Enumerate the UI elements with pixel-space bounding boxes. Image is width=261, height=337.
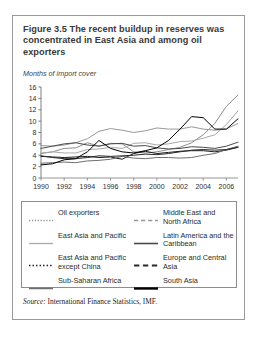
legend-column-left: Oil exportersEast Asia and PacificEast A… (29, 209, 137, 299)
source-text: International Finance Statistics, IMF. (46, 297, 157, 306)
legend-item[interactable]: Latin America and the Caribbean (134, 232, 234, 249)
legend-label: Sub-Saharan Africa (58, 277, 121, 286)
y-tick-label: 10 (29, 118, 37, 125)
figure-container: Figure 3.5 The recent buildup in reserve… (12, 15, 245, 320)
legend-item[interactable]: East Asia and Pacific except China (29, 254, 137, 271)
legend-item[interactable]: Sub-Saharan Africa (29, 277, 137, 294)
legend-swatch-line-icon (29, 234, 53, 243)
source-note: Source: International Finance Statistics… (23, 297, 157, 306)
legend-swatch-line-icon (29, 256, 53, 265)
x-tick-label: 2004 (195, 183, 211, 190)
y-tick-label: 0 (33, 175, 37, 182)
legend-label: South Asia (163, 277, 198, 286)
y-axis-unit-label: Months of import cover (23, 69, 96, 78)
x-tick-label: 1992 (56, 183, 72, 190)
legend-label: East Asia and Pacific except China (58, 254, 137, 271)
line-chart-svg: 0246810121416199019921994199619982000200… (15, 82, 244, 198)
x-tick-label: 1990 (33, 183, 49, 190)
y-tick-label: 16 (29, 84, 37, 91)
y-tick-label: 8 (33, 129, 37, 136)
chart-plot-area: 0246810121416199019921994199619982000200… (15, 82, 244, 198)
y-tick-label: 6 (33, 140, 37, 147)
legend-swatch-line-icon (134, 279, 158, 288)
legend-swatch-line-icon (29, 279, 53, 288)
y-tick-label: 2 (33, 163, 37, 170)
legend-item[interactable]: Middle East and North Africa (134, 209, 234, 226)
y-tick-label: 4 (33, 152, 37, 159)
x-tick-label: 1994 (80, 183, 96, 190)
legend-item[interactable]: Oil exporters (29, 209, 137, 226)
legend-column-right: Middle East and North AfricaLatin Americ… (134, 209, 234, 299)
legend-swatch-line-icon (134, 211, 158, 220)
y-axis-ticks: 0246810121416 (29, 84, 41, 182)
legend-item[interactable]: South Asia (134, 277, 234, 294)
y-tick-label: 14 (29, 95, 37, 102)
y-tick-label: 12 (29, 106, 37, 113)
chart-axes (41, 87, 238, 178)
legend-item[interactable]: East Asia and Pacific (29, 232, 137, 249)
x-tick-label: 2000 (149, 183, 165, 190)
legend-label: East Asia and Pacific (58, 232, 126, 241)
legend-swatch-line-icon (134, 256, 158, 265)
source-label: Source: (23, 297, 46, 306)
x-tick-label: 1996 (103, 183, 119, 190)
legend-swatch-line-icon (29, 211, 53, 220)
chart-legend: Oil exportersEast Asia and PacificEast A… (21, 201, 237, 288)
chart-line-series (41, 95, 238, 154)
chart-series-group (41, 95, 238, 165)
x-tick-label: 1998 (126, 183, 142, 190)
x-tick-label: 2002 (172, 183, 188, 190)
legend-swatch-line-icon (134, 234, 158, 243)
legend-label: Latin America and the Caribbean (163, 232, 234, 249)
legend-label: Oil exporters (58, 209, 99, 218)
legend-item[interactable]: Europe and Central Asia (134, 254, 234, 271)
legend-label: Europe and Central Asia (163, 254, 234, 271)
figure-title: Figure 3.5 The recent buildup in reserve… (23, 24, 235, 58)
x-tick-label: 2006 (219, 183, 235, 190)
legend-label: Middle East and North Africa (163, 209, 234, 226)
x-axis-ticks: 199019921994199619982000200220042006 (33, 178, 234, 190)
